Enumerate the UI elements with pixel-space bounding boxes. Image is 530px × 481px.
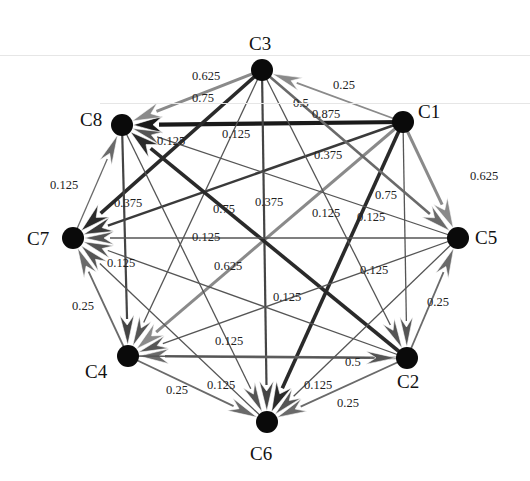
edge-weight-label: 0.875 (312, 107, 340, 121)
edge-weight-label: 0.125 (222, 127, 250, 141)
edge-weight-label: 0.25 (166, 383, 188, 397)
edge-weight-label: 0.125 (192, 230, 220, 244)
edge-c2-to-c5 (407, 272, 444, 358)
node-c3 (251, 59, 273, 81)
edge-weight-label: 0.25 (337, 396, 359, 410)
faint-rule-mid (100, 103, 530, 104)
edge-weight-label: 0.375 (255, 195, 283, 209)
edge-weight-label: 0.25 (427, 295, 449, 309)
edge-weight-label: 0.75 (375, 188, 397, 202)
edge-c8-to-c4 (122, 125, 127, 319)
arrowhead-icon (400, 317, 413, 347)
edge-weight-label: 0.125 (360, 263, 388, 277)
edge-weight-label: 0.625 (192, 69, 220, 83)
arrowhead-icon (100, 135, 118, 165)
edge-c3-to-c6 (262, 70, 266, 385)
edge-c1-to-c5 (403, 122, 442, 205)
arrowhead-icon (120, 315, 134, 345)
network-graph: 0.8750.250.6250.3750.750.6250.1250.6250.… (0, 0, 530, 481)
network-figure: 0.8750.250.6250.3750.750.6250.1250.6250.… (0, 0, 530, 481)
arrowhead-icon (383, 319, 402, 349)
node-c5 (447, 227, 469, 249)
edge-weight-label: 0.375 (114, 196, 142, 210)
node-c4 (117, 345, 139, 367)
node-label-c2: C2 (397, 371, 419, 392)
edge-weight-label: 0.125 (50, 178, 78, 192)
edge-weight-label: 0.125 (312, 206, 340, 220)
edge-weight-label: 0.5 (345, 355, 361, 369)
edge-weight-label: 0.75 (213, 202, 235, 216)
node-label-c8: C8 (80, 109, 102, 130)
edge-weight-label: 0.375 (314, 148, 342, 162)
node-c6 (256, 411, 278, 433)
node-label-c6: C6 (250, 443, 272, 464)
edge-weight-label: 0.125 (273, 290, 301, 304)
node-label-c7: C7 (27, 228, 49, 249)
node-c7 (62, 227, 84, 249)
edge-weight-label: 0.125 (207, 378, 235, 392)
faint-rule-top (0, 55, 530, 56)
node-c2 (396, 347, 418, 369)
node-c8 (111, 114, 133, 136)
edge-c1-to-c8 (159, 122, 403, 125)
edge-weight-label: 0.125 (107, 256, 135, 270)
node-c1 (392, 111, 414, 133)
node-label-c1: C1 (418, 101, 440, 122)
edge-c8-to-c6 (122, 125, 251, 389)
edge-weight-label: 0.25 (72, 299, 94, 313)
node-label-c4: C4 (85, 361, 108, 382)
arrowhead-icon (436, 248, 454, 278)
edge-weight-label: 0.625 (214, 259, 242, 273)
edge-weight-label: 0.125 (215, 334, 243, 348)
edge-weight-label: 0.125 (157, 134, 185, 148)
node-label-c3: C3 (249, 33, 271, 54)
edge-weight-label: 0.125 (357, 210, 385, 224)
edge-c2-to-c8 (151, 148, 407, 358)
edge-weight-label: 0.125 (304, 378, 332, 392)
edge-c5-to-c8 (157, 137, 458, 238)
node-label-c5: C5 (475, 227, 497, 248)
edge-weight-label: 0.625 (470, 169, 498, 183)
arrowhead-icon (259, 381, 273, 411)
edge-weight-label: 0.25 (333, 78, 355, 92)
